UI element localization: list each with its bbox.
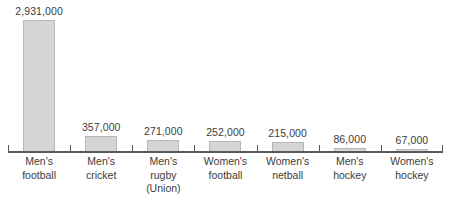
bar-value-label: 271,000 (132, 125, 194, 137)
axis-tick (8, 145, 9, 152)
bar-value-label: 86,000 (319, 133, 381, 145)
axis-tick (442, 145, 443, 152)
plot-area: 2,931,000357,000271,000252,000215,00086,… (8, 0, 443, 152)
bar[interactable] (23, 20, 55, 152)
axis-tick (319, 145, 320, 152)
x-axis-baseline (8, 151, 443, 153)
axis-tick (257, 145, 258, 152)
category-label-line: Men's (319, 155, 381, 169)
category-label-line: Men's (132, 155, 194, 169)
bar[interactable] (85, 136, 117, 152)
category-label: Men'shockey (319, 155, 381, 182)
category-label: Women'snetball (257, 155, 319, 182)
category-label-line: Women's (257, 155, 319, 169)
category-label-line: cricket (70, 169, 132, 183)
category-label-line: hockey (381, 169, 443, 183)
category-label: Women'shockey (381, 155, 443, 182)
axis-tick (194, 145, 195, 152)
bar-value-label: 357,000 (70, 121, 132, 133)
axis-tick (70, 145, 71, 152)
category-label-line: Men's (70, 155, 132, 169)
category-label-line: Men's (8, 155, 70, 169)
axis-tick (132, 145, 133, 152)
category-label-line: football (8, 169, 70, 183)
bar-value-label: 215,000 (257, 127, 319, 139)
bar-value-label: 252,000 (194, 126, 256, 138)
bar-group: 67,000 (381, 0, 443, 152)
bar-group: 252,000 (194, 0, 256, 152)
bar-group: 86,000 (319, 0, 381, 152)
axis-tick (381, 145, 382, 152)
bar-group: 271,000 (132, 0, 194, 152)
bar-group: 215,000 (257, 0, 319, 152)
category-label-line: (Union) (132, 182, 194, 196)
bar-group: 2,931,000 (8, 0, 70, 152)
category-label: Men'srugby(Union) (132, 155, 194, 196)
category-label-line: rugby (132, 169, 194, 183)
category-label-line: netball (257, 169, 319, 183)
category-label-line: Women's (194, 155, 256, 169)
category-label-line: hockey (319, 169, 381, 183)
category-label-line: football (194, 169, 256, 183)
category-labels: Men'sfootballMen'scricketMen'srugby(Unio… (8, 155, 443, 201)
bar-value-label: 2,931,000 (8, 5, 70, 17)
bar-chart: 2,931,000357,000271,000252,000215,00086,… (0, 0, 451, 201)
category-label: Men'scricket (70, 155, 132, 182)
bar-group: 357,000 (70, 0, 132, 152)
category-label: Women'sfootball (194, 155, 256, 182)
category-label-line: Women's (381, 155, 443, 169)
bar-value-label: 67,000 (381, 134, 443, 146)
category-label: Men'sfootball (8, 155, 70, 182)
